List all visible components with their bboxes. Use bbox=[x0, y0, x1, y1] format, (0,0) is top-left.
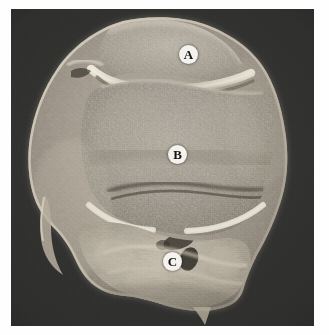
label-marker-a-text: A bbox=[184, 48, 193, 61]
specimen-image bbox=[11, 9, 314, 326]
label-marker-c: C bbox=[163, 252, 182, 271]
figure-root: A B C bbox=[0, 0, 329, 335]
label-marker-a: A bbox=[179, 45, 198, 64]
photographic-plate: A B C bbox=[11, 9, 314, 326]
label-marker-b-text: B bbox=[173, 148, 182, 161]
inferior-tissue-tail bbox=[193, 307, 211, 325]
label-marker-c-text: C bbox=[168, 255, 177, 268]
label-marker-b: B bbox=[168, 145, 187, 164]
specimen-body bbox=[11, 9, 314, 326]
